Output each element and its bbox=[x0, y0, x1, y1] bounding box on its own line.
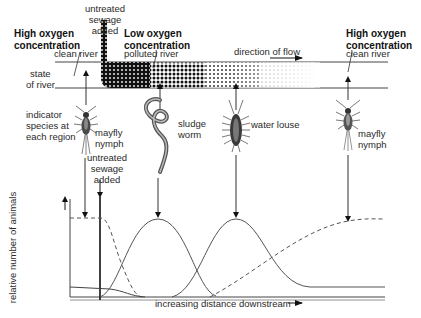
label-line: of river bbox=[26, 79, 55, 90]
clean-river-left-label: clean river bbox=[54, 48, 98, 59]
label-line: nymph bbox=[358, 139, 387, 150]
y-axis-label: relative number of animals bbox=[7, 188, 18, 308]
label-line: water louse bbox=[251, 119, 300, 130]
label-line: added bbox=[78, 25, 132, 36]
title-line: High oxygen bbox=[346, 28, 412, 40]
label-line: untreated bbox=[78, 3, 132, 14]
label-line: sludge bbox=[178, 118, 206, 129]
sewage-added-graph-label: untreated sewage added bbox=[80, 152, 134, 185]
x-axis-label: increasing distance downstream bbox=[155, 298, 291, 309]
label-line: state bbox=[26, 68, 55, 79]
title-line: Low oxygen bbox=[124, 28, 190, 40]
clean-river-right-label: clean river bbox=[346, 48, 390, 59]
sludge-worm-label: sludge worm bbox=[178, 118, 206, 140]
title-line: High oxygen bbox=[14, 28, 80, 40]
mayfly-nymph-right-icon bbox=[336, 100, 360, 151]
sludge-worm-icon bbox=[146, 99, 167, 172]
sewage-added-top-label: untreated sewage added bbox=[78, 3, 132, 36]
state-of-river-label: state of river bbox=[26, 68, 55, 90]
label-line: indicator bbox=[26, 109, 76, 120]
water-louse-label: water louse bbox=[251, 119, 300, 130]
label-line: sewage bbox=[78, 14, 132, 25]
label-line: worm bbox=[178, 129, 206, 140]
label-line: species at bbox=[26, 120, 76, 131]
direction-of-flow-label: direction of flow bbox=[234, 46, 300, 57]
label-line: added bbox=[80, 174, 134, 185]
label-line: mayfly bbox=[95, 127, 124, 138]
label-line: sewage bbox=[80, 163, 134, 174]
population-graph bbox=[62, 180, 385, 303]
label-line: mayfly bbox=[358, 128, 387, 139]
label-line: each region bbox=[26, 131, 76, 142]
label-line: untreated bbox=[80, 152, 134, 163]
indicator-species-label: indicator species at each region bbox=[26, 109, 76, 142]
label-line: nymph bbox=[95, 138, 124, 149]
polluted-river-label: polluted river bbox=[124, 48, 178, 59]
mayfly-nymph-left-label: mayfly nymph bbox=[95, 127, 124, 149]
mayfly-nymph-right-label: mayfly nymph bbox=[358, 128, 387, 150]
